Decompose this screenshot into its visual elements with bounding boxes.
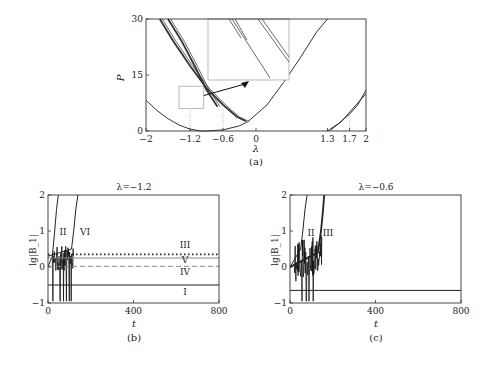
y-tick-label: 2 <box>281 190 287 200</box>
panel-a: −2−1.2−0.601.31.7201530 <box>132 14 369 144</box>
curve-label-VI: VI <box>79 227 90 237</box>
y-tick-label: 1 <box>39 226 45 236</box>
y-tick-label: 0 <box>39 262 45 272</box>
x-tick-label: 2 <box>363 134 369 144</box>
curve-label-III: III <box>323 228 334 238</box>
panel-a-ylabel: P <box>115 74 126 82</box>
zoom-box <box>179 86 204 108</box>
x-tick-label: −0.6 <box>212 134 234 144</box>
y-tick-label: 1 <box>281 226 287 236</box>
x-tick-label: −1.2 <box>179 134 201 144</box>
plot-frame <box>48 195 219 303</box>
x-tick-label: 0 <box>287 306 293 316</box>
panel-b-caption: (b) <box>127 332 141 343</box>
panel-a-xlabel: λ <box>252 143 259 154</box>
panel-c-xlabel: t <box>374 318 379 329</box>
panel-c-title: λ=−0.6 <box>358 182 393 192</box>
figure: −2−1.2−0.601.31.7201530 (a) λ P 0400800−… <box>0 0 494 366</box>
x-tick-label: 0 <box>45 306 51 316</box>
inset-frame <box>208 19 289 80</box>
panel-b-title: λ=−1.2 <box>116 182 151 192</box>
plot-area <box>48 195 219 301</box>
curve-label-II: II <box>307 228 315 238</box>
series-right-branch-2 <box>330 94 366 131</box>
series-left-parabola <box>146 100 207 131</box>
curve-label-IV: IV <box>180 267 191 277</box>
panel-b-ylabel: lg|B_1| <box>28 234 39 266</box>
x-tick-label: 1.7 <box>342 134 357 144</box>
chaotic-oscillation <box>294 236 322 302</box>
curve-label-V: V <box>181 255 189 265</box>
plot-area <box>290 195 461 301</box>
y-tick-label: −1 <box>274 298 287 308</box>
inset <box>208 19 289 80</box>
curve-label-III: III <box>180 240 191 250</box>
panel-a-caption: (a) <box>249 156 263 167</box>
y-tick-label: 0 <box>281 262 287 272</box>
panel-b-xlabel: t <box>132 318 137 329</box>
y-tick-label: 2 <box>39 190 45 200</box>
curve-label-II: II <box>59 227 67 237</box>
y-tick-label: −1 <box>32 298 45 308</box>
series-VI <box>48 195 78 256</box>
x-tick-label: 800 <box>452 306 469 316</box>
x-tick-label: 800 <box>210 306 227 316</box>
x-tick-label: 400 <box>367 306 384 316</box>
panel-c-caption: (c) <box>369 332 383 343</box>
zoom-arrow <box>204 84 245 96</box>
curve-label-I: I <box>183 287 187 297</box>
x-tick-label: 1.3 <box>320 134 335 144</box>
chaotic-oscillation <box>52 246 73 301</box>
panel-c-ylabel: lg|B_1| <box>270 234 281 266</box>
y-tick-label: 15 <box>132 70 144 80</box>
series-right-branch-1 <box>328 90 367 131</box>
panel-c: 0400800−1012IIIII <box>274 190 470 316</box>
panel-b: 0400800−1012IIIIIIIVVVI <box>32 190 228 316</box>
y-tick-label: 0 <box>137 126 143 136</box>
x-tick-label: 400 <box>125 306 142 316</box>
y-tick-label: 30 <box>132 14 144 24</box>
